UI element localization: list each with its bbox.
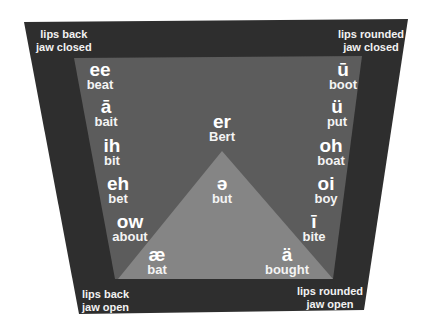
vowel-symbol: oi xyxy=(314,175,337,192)
vowel-ih: ih bit xyxy=(104,137,121,168)
vowel-symbol: ū xyxy=(329,61,357,78)
vowel-oi: oi boy xyxy=(314,175,337,206)
vowel-example-word: about xyxy=(112,230,147,244)
vowel-symbol: ā xyxy=(94,98,117,115)
corner-bottom-left-line2: jaw open xyxy=(82,301,129,314)
vowel-er: er Bert xyxy=(209,113,235,144)
vowel-example-word: bait xyxy=(94,115,117,129)
vowel-symbol: ih xyxy=(104,137,121,154)
vowel-ee: ee beat xyxy=(87,61,114,92)
vowel-a-umlaut: ä bought xyxy=(265,246,309,277)
vowel-u-umlaut: ü put xyxy=(327,98,347,129)
vowel-i-macron: ī bite xyxy=(302,213,325,244)
vowel-eh: eh bet xyxy=(107,175,129,206)
vowel-u-macron: ū boot xyxy=(329,61,357,92)
corner-top-left-line1: lips back xyxy=(36,28,92,41)
corner-bottom-right-line1: lips rounded xyxy=(297,285,363,298)
vowel-example-word: boy xyxy=(314,192,337,206)
corner-top-left-line2: jaw closed xyxy=(36,41,92,54)
vowel-symbol: ī xyxy=(302,213,325,230)
vowel-example-word: bat xyxy=(147,263,167,277)
vowel-example-word: bit xyxy=(104,154,121,168)
vowel-symbol: ü xyxy=(327,98,347,115)
vowel-symbol: ee xyxy=(87,61,114,78)
corner-bottom-right-line2: jaw open xyxy=(297,298,363,311)
vowel-example-word: Bert xyxy=(209,130,235,144)
corner-label-top-right: lips rounded jaw closed xyxy=(338,28,404,54)
vowel-example-word: bought xyxy=(265,263,309,277)
vowel-example-word: but xyxy=(212,192,232,206)
corner-top-right-line1: lips rounded xyxy=(338,28,404,41)
vowel-example-word: boot xyxy=(329,78,357,92)
vowel-symbol: æ xyxy=(147,246,167,263)
vowel-oh: oh boat xyxy=(317,137,344,168)
vowel-example-word: boat xyxy=(317,154,344,168)
vowel-symbol: er xyxy=(209,113,235,130)
vowel-symbol: oh xyxy=(317,137,344,154)
vowel-ae: æ bat xyxy=(147,246,167,277)
vowel-symbol: eh xyxy=(107,175,129,192)
corner-label-top-left: lips back jaw closed xyxy=(36,28,92,54)
vowel-symbol: ə xyxy=(212,175,232,192)
corner-top-right-line2: jaw closed xyxy=(338,41,404,54)
vowel-example-word: bet xyxy=(107,192,129,206)
vowel-example-word: put xyxy=(327,115,347,129)
vowel-a-macron: ā bait xyxy=(94,98,117,129)
vowel-example-word: beat xyxy=(87,78,114,92)
vowel-symbol: ow xyxy=(112,213,147,230)
vowel-schwa: ə but xyxy=(212,175,232,206)
vowel-symbol: ä xyxy=(265,246,309,263)
corner-label-bottom-right: lips rounded jaw open xyxy=(297,285,363,311)
corner-bottom-left-line1: lips back xyxy=(82,288,129,301)
vowel-example-word: bite xyxy=(302,230,325,244)
vowel-ow: ow about xyxy=(112,213,147,244)
corner-label-bottom-left: lips back jaw open xyxy=(82,288,129,314)
